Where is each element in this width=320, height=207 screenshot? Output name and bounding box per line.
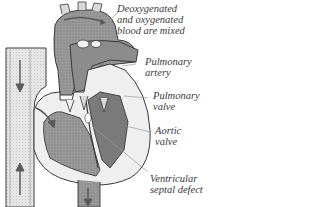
label-ventricular-septal-defect: Ventricular septal defect: [150, 173, 203, 195]
label-line: Pulmonary: [153, 90, 200, 101]
label-line: Ventricular: [150, 173, 203, 184]
label-line: Aortic: [155, 125, 181, 136]
label-line: valve: [153, 101, 200, 112]
label-line: Deoxygenated: [117, 3, 185, 14]
label-mixed-blood: Deoxygenated and oxygenated blood are mi…: [117, 3, 185, 36]
label-line: Pulmonary: [145, 56, 192, 67]
label-line: valve: [155, 136, 181, 147]
label-pulmonary-artery: Pulmonary artery: [145, 56, 192, 78]
label-aortic-valve: Aortic valve: [155, 125, 181, 147]
label-pulmonary-valve: Pulmonary valve: [153, 90, 200, 112]
label-line: artery: [145, 67, 192, 78]
label-line: septal defect: [150, 184, 203, 195]
label-line: and oxygenated: [117, 14, 185, 25]
label-line: blood are mixed: [117, 25, 185, 36]
